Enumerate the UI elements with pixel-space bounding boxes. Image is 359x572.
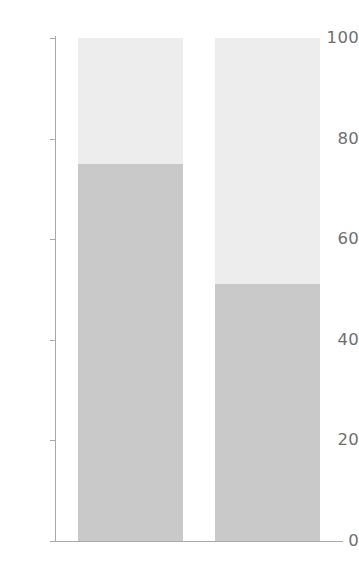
y-tick-mark-40 bbox=[50, 340, 55, 341]
bar-group-1[interactable]: 75 25 bbox=[78, 38, 183, 541]
bar-segment-2-upper[interactable]: 49 bbox=[215, 38, 320, 284]
y-tick-label-40: 40 bbox=[315, 332, 359, 349]
bar-segment-1-upper[interactable]: 25 bbox=[78, 38, 183, 164]
y-tick-mark-60 bbox=[50, 239, 55, 240]
y-tick-label-80: 80 bbox=[315, 131, 359, 148]
y-axis-line bbox=[55, 36, 56, 542]
bar-segment-2-lower[interactable]: 51 bbox=[215, 284, 320, 541]
y-tick-label-60: 60 bbox=[315, 231, 359, 248]
y-tick-mark-80 bbox=[50, 139, 55, 140]
bar-group-2[interactable]: 51 49 bbox=[215, 38, 320, 541]
chart-canvas: 100 80 60 40 20 0 75 25 51 49 bbox=[0, 0, 359, 572]
y-tick-mark-0 bbox=[50, 541, 55, 542]
y-tick-label-0: 0 bbox=[315, 533, 359, 550]
y-tick-label-100: 100 bbox=[315, 30, 359, 47]
y-tick-mark-100 bbox=[50, 38, 55, 39]
x-axis-line bbox=[55, 541, 343, 542]
y-tick-mark-20 bbox=[50, 440, 55, 441]
y-tick-label-20: 20 bbox=[315, 432, 359, 449]
bar-segment-1-lower[interactable]: 75 bbox=[78, 164, 183, 541]
